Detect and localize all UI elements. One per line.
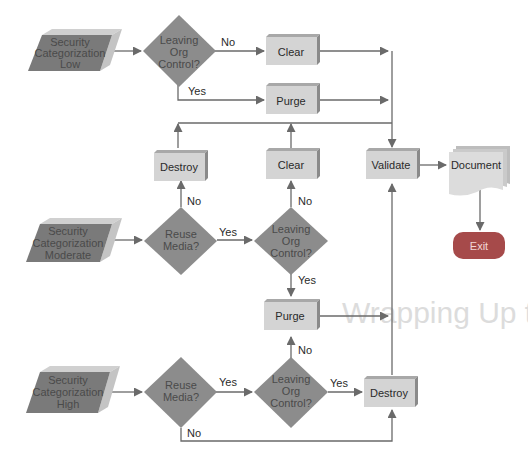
svg-text:Media?: Media? bbox=[163, 391, 199, 403]
decision-moderate-leaving-org-control[interactable]: Leaving Org Control? bbox=[254, 207, 328, 275]
input-moderate-line3: Moderate bbox=[45, 249, 91, 261]
process-destroy-middle[interactable]: Destroy bbox=[154, 150, 208, 181]
svg-text:Leaving: Leaving bbox=[160, 34, 199, 46]
svg-text:Org: Org bbox=[282, 235, 300, 247]
label-low-no: No bbox=[221, 36, 235, 48]
decision-high-leaving-org-control[interactable]: Leaving Org Control? bbox=[254, 357, 328, 428]
svg-text:Destroy: Destroy bbox=[160, 161, 198, 173]
exit-terminator[interactable]: Exit bbox=[453, 232, 505, 259]
svg-text:Reuse: Reuse bbox=[165, 228, 197, 240]
svg-text:Reuse: Reuse bbox=[165, 379, 197, 391]
input-high-line3: High bbox=[57, 398, 80, 410]
svg-text:Control?: Control? bbox=[270, 247, 312, 259]
input-moderate-line2: Categorization bbox=[33, 237, 104, 249]
svg-text:Control?: Control? bbox=[158, 58, 200, 70]
label-mod-leaving-no: No bbox=[298, 195, 312, 207]
svg-text:Media?: Media? bbox=[163, 240, 199, 252]
input-low-line3: Low bbox=[60, 58, 80, 70]
decision-moderate-reuse-media[interactable]: Reuse Media? bbox=[144, 207, 217, 275]
svg-text:Destroy: Destroy bbox=[370, 387, 408, 399]
process-validate[interactable]: Validate bbox=[366, 148, 420, 179]
label-mod-reuse-no: No bbox=[187, 195, 201, 207]
label-mod-leaving-yes: Yes bbox=[298, 274, 316, 286]
svg-text:Leaving: Leaving bbox=[272, 373, 311, 385]
svg-text:Leaving: Leaving bbox=[272, 223, 311, 235]
svg-text:Purge: Purge bbox=[275, 310, 304, 322]
svg-text:Document: Document bbox=[451, 159, 501, 171]
label-high-leaving-yes: Yes bbox=[330, 377, 348, 389]
process-clear-top[interactable]: Clear bbox=[266, 34, 320, 65]
label-mod-reuse-yes: Yes bbox=[219, 226, 237, 238]
input-security-low[interactable]: Security Categorization Low bbox=[28, 29, 122, 71]
label-purge-no: No bbox=[298, 344, 312, 356]
input-high-line2: Categorization bbox=[33, 386, 104, 398]
svg-text:Clear: Clear bbox=[278, 46, 305, 58]
svg-text:Validate: Validate bbox=[372, 159, 411, 171]
svg-text:Exit: Exit bbox=[470, 240, 488, 252]
decision-low-leaving-org-control[interactable]: Leaving Org Control? bbox=[143, 15, 216, 87]
svg-text:Control?: Control? bbox=[270, 397, 312, 409]
process-clear-middle[interactable]: Clear bbox=[266, 148, 320, 179]
label-low-yes: Yes bbox=[188, 85, 206, 97]
svg-text:Org: Org bbox=[282, 385, 300, 397]
label-high-reuse-no: No bbox=[187, 427, 201, 439]
input-security-moderate[interactable]: Security Categorization Moderate bbox=[26, 218, 122, 262]
document-shape[interactable]: Document bbox=[449, 146, 510, 196]
label-high-reuse-yes: Yes bbox=[219, 376, 237, 388]
process-purge-top[interactable]: Purge bbox=[266, 83, 320, 114]
decision-high-reuse-media[interactable]: Reuse Media? bbox=[144, 357, 217, 428]
flowchart-canvas: Wrapping Up the Course bbox=[0, 0, 528, 461]
input-security-high[interactable]: Security Categorization High bbox=[26, 366, 120, 413]
svg-text:Org: Org bbox=[170, 46, 188, 58]
process-destroy-bottom[interactable]: Destroy bbox=[364, 376, 418, 407]
svg-text:Purge: Purge bbox=[276, 95, 305, 107]
input-moderate-line1: Security bbox=[48, 225, 88, 237]
process-purge-bottom[interactable]: Purge bbox=[264, 299, 320, 330]
svg-text:Clear: Clear bbox=[278, 159, 305, 171]
input-high-line1: Security bbox=[48, 374, 88, 386]
